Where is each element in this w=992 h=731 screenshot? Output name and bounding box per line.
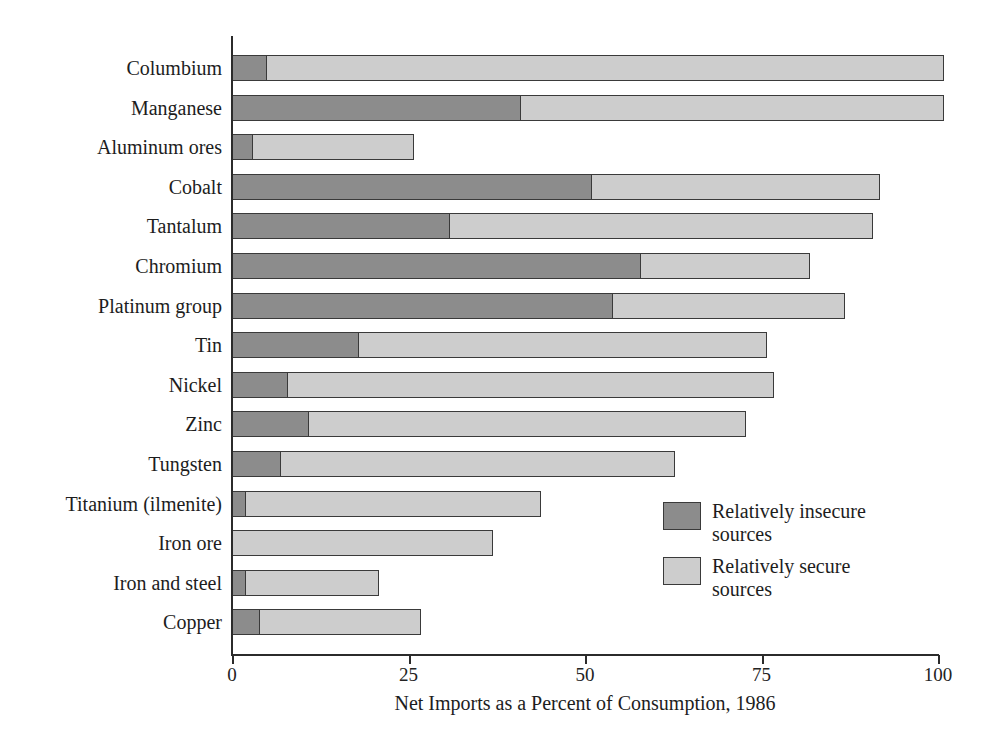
stacked-bar-chart: ColumbiumManganeseAluminum oresCobaltTan… <box>0 0 992 731</box>
category-label: Tin <box>2 332 222 358</box>
category-label: Tungsten <box>2 451 222 477</box>
bar-segment-secure <box>449 213 873 239</box>
x-tick-label: 25 <box>399 664 418 686</box>
bar-row <box>232 95 945 121</box>
bar-row <box>232 411 747 437</box>
category-label: Tantalum <box>2 213 222 239</box>
bar-segment-secure <box>280 451 675 477</box>
dark-gray-swatch-icon <box>663 502 701 530</box>
bar-segment-insecure <box>232 609 260 635</box>
bar-segment-secure <box>245 491 542 517</box>
bar-row <box>232 213 874 239</box>
bar-segment-insecure <box>232 332 359 358</box>
category-label: Manganese <box>2 95 222 121</box>
bar-segment-secure <box>287 372 774 398</box>
x-tick-label: 100 <box>924 664 953 686</box>
legend-label-insecure: Relatively insecure sources <box>712 500 866 546</box>
bar-segment-secure <box>308 411 746 437</box>
bar-row <box>232 372 776 398</box>
y-axis-line <box>231 36 233 655</box>
bar-segment-insecure <box>232 253 641 279</box>
legend-item-secure: Relatively secure sources <box>663 555 953 601</box>
bar-row <box>232 530 493 556</box>
legend-label-insecure-line2: sources <box>712 523 772 545</box>
bar-segment-insecure <box>232 134 253 160</box>
bar-segment-secure <box>591 174 880 200</box>
bar-row <box>232 174 882 200</box>
x-axis-title: Net Imports as a Percent of Consumption,… <box>231 692 939 715</box>
legend-label-secure-line2: sources <box>712 578 772 600</box>
light-gray-swatch-icon <box>663 557 701 585</box>
category-label: Iron ore <box>2 530 222 556</box>
bar-segment-secure <box>252 134 414 160</box>
bar-segment-secure <box>520 95 944 121</box>
bar-segment-secure <box>266 55 944 81</box>
x-tick-label: 50 <box>576 664 595 686</box>
category-labels: ColumbiumManganeseAluminum oresCobaltTan… <box>0 36 222 655</box>
category-label: Platinum group <box>2 293 222 319</box>
bar-row <box>232 570 380 596</box>
x-tick-label: 75 <box>752 664 771 686</box>
bar-segment-insecure <box>232 372 288 398</box>
bar-segment-secure <box>259 609 421 635</box>
x-tick <box>762 655 764 664</box>
x-tick <box>585 655 587 664</box>
bar-row <box>232 55 945 81</box>
chart-legend: Relatively insecure sources Relatively s… <box>663 500 953 610</box>
bar-row <box>232 134 416 160</box>
category-label: Columbium <box>2 55 222 81</box>
category-label: Nickel <box>2 372 222 398</box>
bar-segment-insecure <box>232 55 267 81</box>
category-label: Iron and steel <box>2 570 222 596</box>
bar-row <box>232 253 811 279</box>
x-tick-label: 0 <box>227 664 237 686</box>
bar-row <box>232 451 677 477</box>
bar-row <box>232 491 543 517</box>
bar-segment-secure <box>612 293 845 319</box>
legend-item-insecure: Relatively insecure sources <box>663 500 953 546</box>
category-label: Chromium <box>2 253 222 279</box>
bar-segment-insecure <box>232 95 521 121</box>
category-label: Titanium (ilmenite) <box>2 491 222 517</box>
x-tick <box>409 655 411 664</box>
bar-segment-secure <box>232 530 493 556</box>
bar-row <box>232 293 846 319</box>
bar-segment-insecure <box>232 451 281 477</box>
category-label: Cobalt <box>2 174 222 200</box>
legend-label-secure-line1: Relatively secure <box>712 555 850 577</box>
bar-segment-secure <box>245 570 379 596</box>
x-tick <box>232 655 234 664</box>
category-label: Zinc <box>2 411 222 437</box>
category-label: Aluminum ores <box>2 134 222 160</box>
legend-label-insecure-line1: Relatively insecure <box>712 500 866 522</box>
bar-row <box>232 332 769 358</box>
x-tick <box>938 655 940 664</box>
bar-segment-secure <box>358 332 767 358</box>
bar-segment-insecure <box>232 213 451 239</box>
bar-segment-secure <box>640 253 809 279</box>
bar-segment-insecure <box>232 411 310 437</box>
legend-label-secure: Relatively secure sources <box>712 555 850 601</box>
category-label: Copper <box>2 609 222 635</box>
bar-row <box>232 609 423 635</box>
bar-segment-insecure <box>232 174 592 200</box>
bar-segment-insecure <box>232 293 613 319</box>
